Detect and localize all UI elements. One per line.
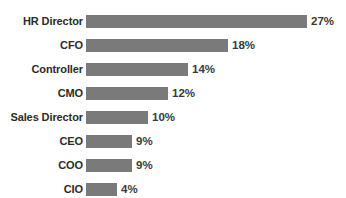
bar-category-label: CMO <box>0 87 83 99</box>
bar-value-label: 9% <box>136 159 153 171</box>
bar-fill[interactable] <box>86 63 188 76</box>
bar-fill[interactable] <box>86 183 117 196</box>
bar-fill[interactable] <box>86 135 132 148</box>
bar-row: Controller 14% <box>0 57 346 81</box>
bar-row: CFO 18% <box>0 33 346 57</box>
bar-value-label: 27% <box>311 15 334 27</box>
bar-category-label: COO <box>0 159 83 171</box>
bar-track: 12% <box>86 81 346 105</box>
bar-row: CIO 4% <box>0 177 346 198</box>
bar-category-label: CIO <box>0 183 83 195</box>
bar-track: 4% <box>86 177 346 198</box>
bar-row: COO 9% <box>0 153 346 177</box>
bar-category-label: CFO <box>0 39 83 51</box>
bar-track: 9% <box>86 153 346 177</box>
bar-fill[interactable] <box>86 15 307 28</box>
bar-value-label: 18% <box>232 39 255 51</box>
bar-category-label: Controller <box>0 63 83 75</box>
bar-fill[interactable] <box>86 111 148 124</box>
bar-track: 18% <box>86 33 346 57</box>
bar-track: 10% <box>86 105 346 129</box>
bar-row: Sales Director 10% <box>0 105 346 129</box>
bar-track: 14% <box>86 57 346 81</box>
bar-category-label: Sales Director <box>0 111 83 123</box>
bar-category-label: CEO <box>0 135 83 147</box>
bar-row: CEO 9% <box>0 129 346 153</box>
bar-track: 9% <box>86 129 346 153</box>
bar-value-label: 12% <box>172 87 195 99</box>
bar-fill[interactable] <box>86 159 132 172</box>
bar-value-label: 4% <box>121 183 138 195</box>
bar-chart-plot-area: HR Director 27% CFO 18% Controller 14% C… <box>0 9 346 198</box>
bar-fill[interactable] <box>86 39 228 52</box>
bar-row: CMO 12% <box>0 81 346 105</box>
bar-chart: HR Director 27% CFO 18% Controller 14% C… <box>0 0 346 198</box>
bar-value-label: 9% <box>136 135 153 147</box>
bar-track: 27% <box>86 9 346 33</box>
bar-row: HR Director 27% <box>0 9 346 33</box>
bar-value-label: 14% <box>192 63 215 75</box>
bar-category-label: HR Director <box>0 15 83 27</box>
bar-fill[interactable] <box>86 87 168 100</box>
bar-value-label: 10% <box>152 111 175 123</box>
